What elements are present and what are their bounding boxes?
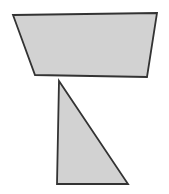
trapezoid-shape <box>13 13 157 77</box>
shape-canvas-container <box>0 0 169 194</box>
shapes-figure <box>0 0 169 194</box>
